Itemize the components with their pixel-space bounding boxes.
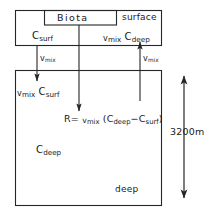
biota-box-label: Biota — [57, 13, 89, 23]
deep-concentration-label: Cdeep — [36, 145, 61, 156]
depth-scale-label: 3200m — [170, 127, 204, 137]
v-subscript: mix — [22, 90, 35, 99]
v-subscript: mix — [87, 118, 100, 126]
c-symbol: C — [39, 86, 46, 97]
c-subscript: surf — [46, 90, 60, 99]
ocean-box-model-diagram: Biota surface Csurf vmix Cdeep vmix vmix… — [0, 0, 212, 216]
equation-equals: = — [71, 113, 79, 124]
v-subscript: mix — [45, 57, 56, 63]
close-paren: ) — [159, 113, 163, 124]
term2-subscript: surf — [146, 118, 159, 126]
term2-symbol: C — [139, 113, 146, 124]
equation-lhs: R — [64, 113, 71, 124]
c-subscript: deep — [43, 148, 61, 157]
minus-operator: − — [131, 113, 139, 124]
surface-box-label: surface — [122, 13, 157, 22]
deep-box-label: deep — [115, 185, 138, 194]
mixing-rate-label-right: vmix — [143, 55, 159, 64]
c-subscript: surf — [39, 34, 53, 43]
c-symbol: C — [125, 31, 132, 42]
c-subscript: deep — [132, 35, 150, 44]
v-subscript: mix — [148, 57, 159, 63]
term1-subscript: deep — [114, 118, 131, 126]
exchange-rate-equation: R= vmix (Cdeep−Csurf) — [64, 114, 163, 125]
upward-flux-label: vmix Cdeep — [103, 32, 150, 43]
term1-symbol: C — [107, 113, 114, 124]
mixing-rate-label-left: vmix — [40, 55, 56, 64]
surface-concentration-label: Csurf — [32, 31, 53, 42]
v-subscript: mix — [108, 35, 121, 44]
downward-flux-label: vmix Csurf — [17, 87, 60, 98]
